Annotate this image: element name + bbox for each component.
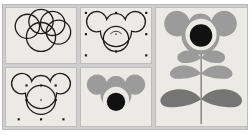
circle-outline-right [46,20,70,44]
selection-handle-bl[interactable] [85,54,87,56]
selection-handle-tm[interactable] [115,12,117,14]
circle-outline-left [15,14,39,38]
flower-center-disc [190,24,213,47]
selection-handle-tl[interactable] [85,12,87,14]
selection-handle-br[interactable] [62,118,64,120]
bloom-center-disc [107,93,125,111]
panel-step-5-final-flower[interactable] [155,7,248,127]
filled-bloom-drawing [81,68,151,126]
panel-step-4-filled-bloom[interactable] [80,67,152,127]
leaf-large-right [202,89,242,107]
panel-step-1-overlapping-circles[interactable] [5,7,77,64]
selection-handle-tl[interactable] [25,84,27,86]
figure-canvas [0,0,252,135]
selection-handle-mr[interactable] [55,99,57,101]
leaf-mid-left [170,65,201,78]
merged-outline-drawing [81,8,151,63]
selection-handle-bm[interactable] [40,118,42,120]
anchor-dot-center [40,99,42,101]
selection-handle-bl[interactable] [18,118,20,120]
selection-handle-ml[interactable] [85,33,87,35]
leaf-mid-right [202,65,233,78]
final-flower-drawing [156,8,247,126]
selection-handle-br[interactable] [145,54,147,56]
overlapping-circles-drawing [6,8,76,63]
bloom-outline [12,73,71,108]
leaf-large-left [160,89,200,107]
selection-handle-tr[interactable] [145,12,147,14]
selection-handle-tm[interactable] [40,84,42,86]
panel-step-3-outline-stack[interactable] [5,67,77,127]
selection-handle-bm[interactable] [115,50,117,52]
selection-handle-mr[interactable] [145,33,147,35]
inner-circle-outline [103,26,128,51]
bloom-outline [87,12,146,47]
selection-handle-ml[interactable] [25,99,27,101]
anchor-dot [115,33,117,35]
selection-handle-tr[interactable] [55,84,57,86]
outline-stack-drawing [6,68,76,126]
panel-step-2-merged-outline[interactable] [80,7,152,64]
